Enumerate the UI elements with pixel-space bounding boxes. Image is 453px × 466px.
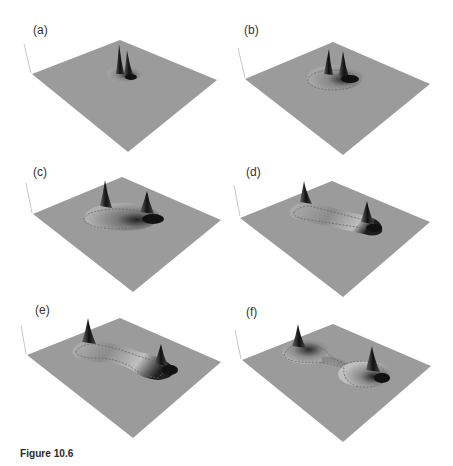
panel-f: (f) [226,300,452,448]
panel-d: (d) [226,150,452,298]
surface-plot-a [0,0,226,160]
surface-plot-d [226,150,453,310]
panel-c: (c) [0,150,226,298]
surface-plot-b [226,0,453,160]
panel-b: (b) [226,0,452,148]
surface-plot-f [226,300,453,466]
figure-caption: Figure 10.6 [20,447,73,459]
surface-plot-e [0,300,226,466]
panel-e: (e) [0,300,226,448]
panel-a: (a) [0,0,226,148]
surface-plot-c [0,150,226,310]
